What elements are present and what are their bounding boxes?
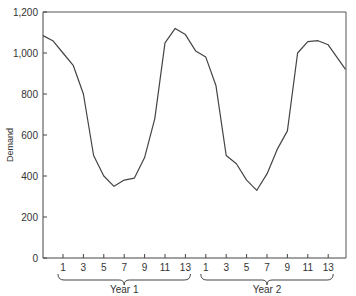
x-tick-label: 3 <box>223 262 229 273</box>
y-tick-label: 200 <box>21 212 38 223</box>
series-line-demand <box>43 28 346 190</box>
year-group-label: Year 2 <box>253 284 282 295</box>
y-tick-label: 0 <box>32 253 38 264</box>
x-tick-label: 7 <box>121 262 127 273</box>
x-tick-label: 5 <box>101 262 107 273</box>
y-tick-label: 800 <box>21 89 38 100</box>
y-axis: 02004006008001,0001,200 <box>13 7 47 264</box>
x-tick-label: 3 <box>81 262 87 273</box>
x-tick-label: 1 <box>203 262 209 273</box>
x-axis: 135791113135791113 <box>60 254 334 273</box>
y-tick-label: 1,200 <box>13 7 38 18</box>
x-tick-label: 9 <box>285 262 291 273</box>
y-axis-title: Demand <box>5 128 15 162</box>
year-group-label: Year 1 <box>110 284 139 295</box>
x-group-labels: Year 1Year 2 <box>58 274 333 295</box>
y-tick-label: 600 <box>21 130 38 141</box>
demand-line-chart: 02004006008001,0001,200 1357911131357911… <box>0 0 356 296</box>
x-tick-label: 1 <box>60 262 66 273</box>
x-tick-label: 9 <box>142 262 148 273</box>
series-demand <box>43 28 346 190</box>
x-tick-label: 13 <box>180 262 192 273</box>
x-tick-label: 7 <box>264 262 270 273</box>
y-tick-label: 400 <box>21 171 38 182</box>
x-tick-label: 11 <box>303 262 314 273</box>
x-tick-label: 13 <box>323 262 335 273</box>
x-tick-label: 11 <box>160 262 171 273</box>
y-tick-label: 1,000 <box>13 48 38 59</box>
x-tick-label: 5 <box>244 262 250 273</box>
